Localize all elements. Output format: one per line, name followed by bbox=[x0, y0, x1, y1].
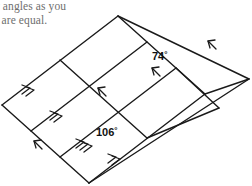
angle-label-74: 74° bbox=[152, 50, 167, 62]
parallelogram-grid-figure: 74° 106° bbox=[0, 0, 252, 186]
angle-label-106: 106° bbox=[96, 126, 118, 138]
angle-106-degree-symbol: ° bbox=[114, 126, 117, 135]
grid-line-right-cross-2 bbox=[147, 108, 219, 138]
angle-74-value: 74 bbox=[152, 50, 165, 62]
double-chevron-icon-1 bbox=[22, 85, 34, 96]
grid-line-right-short bbox=[205, 79, 249, 94]
angle-106-value: 106 bbox=[96, 126, 114, 138]
angle-74-degree-symbol: ° bbox=[164, 50, 167, 59]
single-chevron-icon-6 bbox=[152, 67, 160, 76]
single-chevron-icon-8 bbox=[208, 40, 216, 49]
double-chevron-icon-2 bbox=[50, 111, 62, 122]
arrow-marks-group bbox=[22, 40, 216, 165]
single-chevron-icon-7 bbox=[34, 140, 42, 149]
grid-line-right-cross-1 bbox=[176, 68, 219, 108]
triple-chevron-icon-3 bbox=[76, 139, 92, 152]
outer-edge-top-right bbox=[118, 16, 249, 79]
figure-canvas: v angles as you s are equal. bbox=[0, 0, 252, 186]
